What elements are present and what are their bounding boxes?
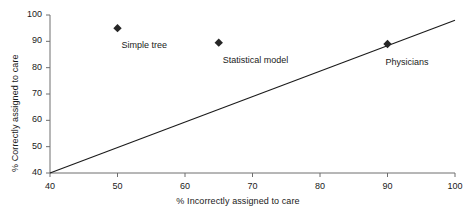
x-tick-label: 90 bbox=[368, 181, 408, 191]
y-tick-label: 70 bbox=[12, 88, 42, 98]
y-tick-label: 80 bbox=[12, 62, 42, 72]
y-axis-ticks bbox=[46, 15, 50, 173]
x-tick-label: 50 bbox=[98, 181, 138, 191]
x-tick-label: 70 bbox=[233, 181, 273, 191]
x-tick-label: 40 bbox=[30, 181, 70, 191]
reference-line bbox=[50, 20, 455, 173]
scatter-chart-figure: % Incorrectly assigned to care % Correct… bbox=[0, 0, 476, 218]
y-axis-title: % Correctly assigned to care bbox=[10, 54, 20, 172]
data-point-label: Physicians bbox=[386, 57, 429, 67]
data-point-label: Simple tree bbox=[122, 40, 168, 50]
y-tick-label: 90 bbox=[12, 35, 42, 45]
data-point-label: Statistical model bbox=[223, 55, 289, 65]
y-tick-label: 40 bbox=[12, 167, 42, 177]
y-tick-label: 50 bbox=[12, 141, 42, 151]
x-tick-label: 60 bbox=[165, 181, 205, 191]
y-tick-label: 100 bbox=[12, 9, 42, 19]
x-axis-ticks bbox=[50, 173, 455, 177]
x-tick-label: 80 bbox=[300, 181, 340, 191]
x-tick-label: 100 bbox=[435, 181, 475, 191]
diamond-marker bbox=[215, 38, 223, 46]
x-axis-title: % Incorrectly assigned to care bbox=[0, 196, 476, 206]
diamond-marker bbox=[113, 24, 121, 32]
y-tick-label: 60 bbox=[12, 114, 42, 124]
